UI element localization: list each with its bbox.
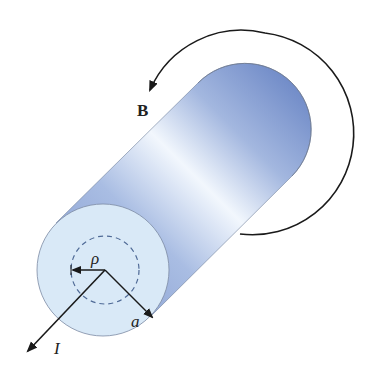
label-a: a — [131, 312, 140, 331]
conductor-diagram: B ρ a I — [0, 0, 376, 372]
label-current: I — [53, 339, 61, 358]
label-b-field: B — [137, 101, 148, 120]
label-rho: ρ — [90, 249, 99, 268]
